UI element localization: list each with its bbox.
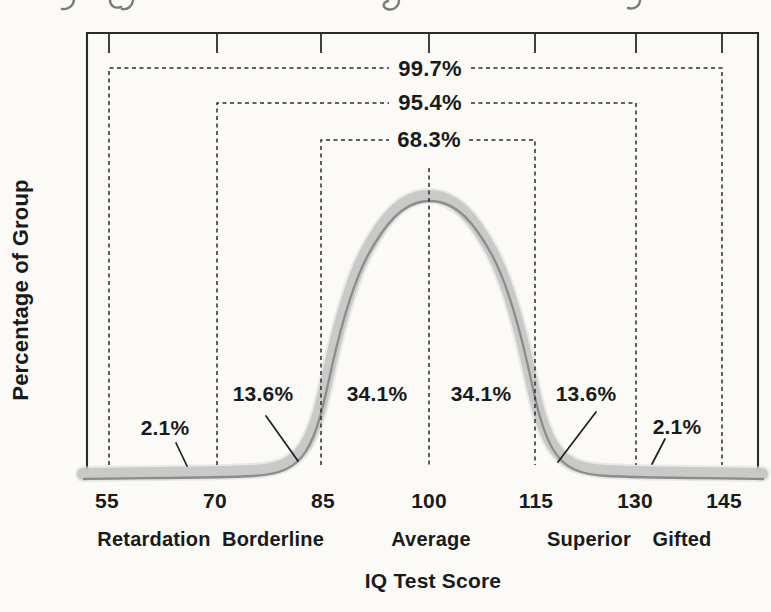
- bracket-label-95-4: 95.4%: [398, 90, 461, 116]
- x-tick-label-85: 85: [311, 489, 335, 513]
- leader-2-1-right: [652, 439, 665, 464]
- area-label-2-1-left: 2.1%: [141, 416, 190, 440]
- bracket-label-99-7: 99.7%: [398, 56, 461, 82]
- area-label-34-1-left: 34.1%: [347, 382, 408, 406]
- x-tick-label-100: 100: [411, 489, 447, 513]
- area-label-13-6-right: 13.6%: [556, 382, 617, 406]
- area-label-34-1-right: 34.1%: [451, 382, 512, 406]
- x-axis-label: IQ Test Score: [365, 569, 501, 593]
- clipped-text-fragments: [62, 0, 640, 10]
- y-axis-label: Percentage of Group: [8, 179, 34, 400]
- bracket-68-3-line: [321, 140, 389, 465]
- category-label-superior: Superior: [547, 528, 631, 551]
- bracket-95-4-line: [217, 103, 389, 465]
- x-tick-label-130: 130: [617, 489, 653, 513]
- category-label-gifted: Gifted: [653, 528, 712, 551]
- leader-lines: [176, 412, 665, 466]
- x-tick-label-115: 115: [519, 489, 553, 513]
- iq-distribution-figure: Percentage of Group IQ Test Score 99.7% …: [0, 0, 771, 612]
- area-label-13-6-left: 13.6%: [233, 382, 294, 406]
- category-label-borderline: Borderline: [222, 528, 324, 551]
- leader-13-6-left: [266, 416, 298, 461]
- leader-13-6-right: [558, 412, 596, 462]
- x-tick-label-145: 145: [706, 489, 742, 513]
- chart-canvas: [0, 0, 771, 612]
- x-tick-label-55: 55: [95, 489, 119, 513]
- axis-tick-marks: [109, 34, 722, 53]
- area-label-2-1-right: 2.1%: [653, 415, 702, 439]
- category-label-retardation: Retardation: [97, 528, 210, 551]
- leader-2-1-left: [176, 443, 187, 466]
- bracket-label-68-3: 68.3%: [397, 127, 460, 153]
- category-label-average: Average: [391, 528, 471, 551]
- x-tick-label-70: 70: [203, 489, 227, 513]
